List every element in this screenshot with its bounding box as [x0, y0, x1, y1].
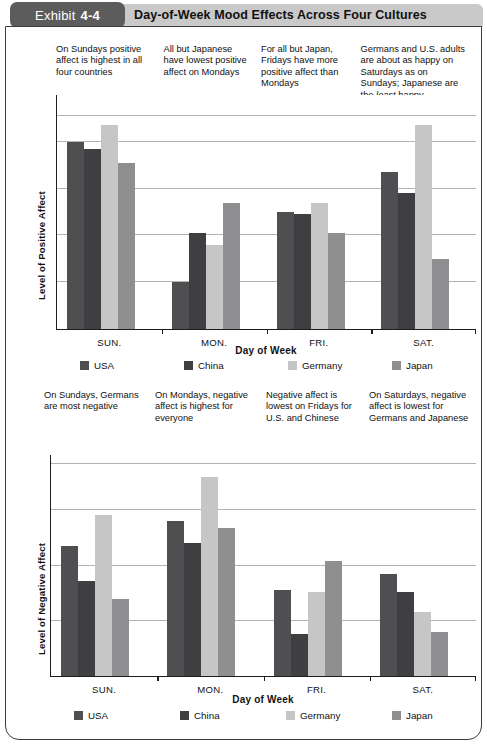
bar-japan-sun: [112, 599, 129, 676]
legend-label: Germany: [300, 710, 340, 721]
bar-germany-fri: [308, 592, 325, 676]
legend-label: China: [194, 710, 220, 721]
bar-germany-mon: [201, 477, 218, 676]
gridline: [51, 463, 476, 464]
bar-japan-fri: [325, 561, 342, 676]
legend-item-usa: USA: [74, 710, 108, 721]
bar-china-sat: [397, 592, 414, 676]
bar-china-fri: [291, 634, 308, 676]
bar-japan-sat: [431, 632, 448, 676]
legend-label: Japan: [406, 710, 433, 721]
gridline: [51, 565, 476, 566]
legend-swatch-icon: [392, 711, 401, 720]
bar-japan-mon: [218, 528, 235, 676]
chart2-plot-area: SUN.MON.FRI.SAT.: [50, 455, 476, 677]
bar-china-sun: [78, 581, 95, 676]
x-axis-tick-end: [475, 676, 476, 681]
legend-swatch-icon: [180, 711, 189, 720]
legend-swatch-icon: [286, 711, 295, 720]
gridline: [51, 509, 476, 510]
legend-item-japan: Japan: [392, 710, 433, 721]
bar-usa-sat: [380, 574, 397, 676]
chart2-y-axis-title: Level of Negative Affect: [36, 543, 47, 655]
x-axis-tick: [157, 676, 158, 681]
x-axis-tick: [264, 676, 265, 681]
legend-swatch-icon: [74, 711, 83, 720]
exhibit-page: Exhibit 4-4 Day-of-Week Mood Effects Acr…: [0, 0, 487, 748]
chart2-x-axis-title: Day of Week: [50, 694, 476, 705]
chart-negative-affect: Level of Negative Affect SUN.MON.FRI.SAT…: [0, 0, 487, 748]
bar-usa-mon: [167, 521, 184, 676]
x-axis-tick: [370, 676, 371, 681]
legend-label: USA: [88, 710, 108, 721]
bar-china-mon: [184, 543, 201, 676]
bar-usa-fri: [274, 590, 291, 676]
legend-item-germany: Germany: [286, 710, 340, 721]
bar-germany-sun: [95, 515, 112, 676]
bar-germany-sat: [414, 612, 431, 676]
bar-usa-sun: [61, 546, 78, 676]
legend-item-china: China: [180, 710, 220, 721]
